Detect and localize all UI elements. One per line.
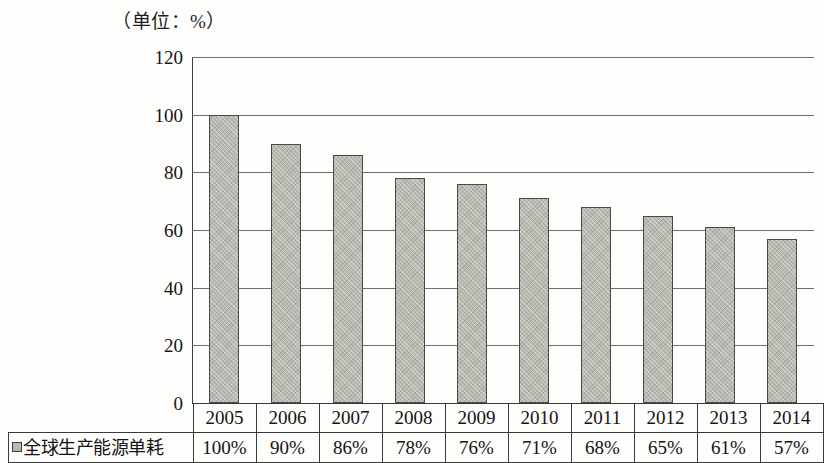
bar-2011 (581, 207, 611, 403)
table-header-2010: 2010 (508, 404, 571, 433)
table-header-2008: 2008 (382, 404, 445, 433)
table-header-2011: 2011 (571, 404, 634, 433)
bar-2010 (519, 198, 549, 403)
bar-2006 (271, 144, 301, 404)
bar-2008 (395, 178, 425, 403)
plot-area: 020406080100120 (192, 57, 814, 403)
table-value-2009: 76% (445, 433, 508, 463)
y-tick-label-100: 100 (155, 105, 184, 124)
gridline-100 (192, 115, 814, 116)
bar-2007 (333, 155, 363, 403)
bar-2005 (209, 115, 239, 403)
table-header-2005: 2005 (193, 404, 256, 433)
y-tick-label-60: 60 (164, 221, 183, 240)
table-value-2014: 57% (760, 433, 823, 463)
bar-2009 (457, 184, 487, 403)
table-header-2006: 2006 (256, 404, 319, 433)
bar-2014 (767, 239, 797, 403)
table-value-2010: 71% (508, 433, 571, 463)
y-tick-label-40: 40 (164, 278, 183, 297)
gridline-120 (192, 57, 814, 58)
table-header-2014: 2014 (760, 404, 823, 433)
legend-label: 全球生产能源单耗 (23, 437, 163, 458)
bar-2012 (643, 216, 673, 403)
table-header-2007: 2007 (319, 404, 382, 433)
y-tick-label-80: 80 (164, 163, 183, 182)
unit-caption: （单位：%） (112, 6, 226, 33)
table-value-2011: 68% (571, 433, 634, 463)
y-tick-label-120: 120 (155, 48, 184, 67)
table-row-header: 2005200620072008200920102011201220132014 (9, 404, 824, 433)
table-value-2008: 78% (382, 433, 445, 463)
table-value-2013: 61% (697, 433, 760, 463)
table-header-2013: 2013 (697, 404, 760, 433)
y-tick-label-20: 20 (164, 336, 183, 355)
bar-2013 (705, 227, 735, 403)
data-table: 2005200620072008200920102011201220132014… (8, 403, 824, 463)
legend-cell: 全球生产能源单耗 (9, 433, 194, 463)
table-header-2012: 2012 (634, 404, 697, 433)
legend-swatch-icon (12, 442, 22, 452)
table-header-2009: 2009 (445, 404, 508, 433)
table-value-2006: 90% (256, 433, 319, 463)
table-row-values: 全球生产能源单耗 100%90%86%78%76%71%68%65%61%57% (9, 433, 824, 463)
table-value-2005: 100% (193, 433, 256, 463)
table-corner-blank (9, 404, 194, 433)
table-value-2007: 86% (319, 433, 382, 463)
table-value-2012: 65% (634, 433, 697, 463)
